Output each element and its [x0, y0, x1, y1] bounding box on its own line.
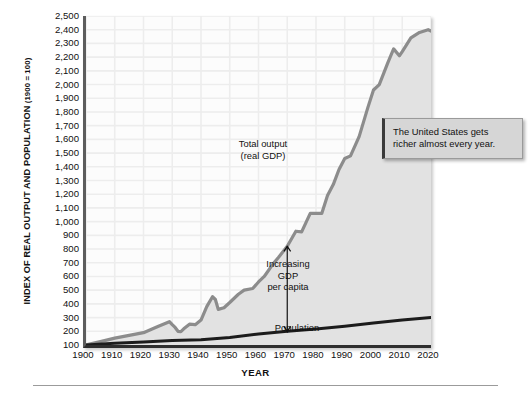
y-tick-label: 500	[27, 285, 79, 295]
y-tick-label: 1,800	[27, 107, 79, 117]
y-tick-label: 1,500	[27, 148, 79, 158]
callout-line1: The United States gets	[393, 126, 515, 138]
y-tick-label: 400	[27, 299, 79, 309]
y-tick-label: 2,100	[27, 66, 79, 76]
x-axis-title: YEAR	[83, 367, 428, 378]
chart-figure: INDEX OF REAL OUTPUT AND POPULATION (190…	[0, 0, 531, 400]
chart-svg	[86, 16, 431, 345]
y-tick-label: 700	[27, 258, 79, 268]
y-tick-label: 2,200	[27, 52, 79, 62]
y-tick-label: 600	[27, 271, 79, 281]
y-tick-label: 2,400	[27, 25, 79, 35]
series-label-population: Population	[254, 322, 340, 334]
y-tick-label: 300	[27, 313, 79, 323]
y-tick-label: 200	[27, 326, 79, 336]
footer-divider	[33, 385, 498, 386]
y-tick-label: 2,300	[27, 38, 79, 48]
y-tick-label: 1,600	[27, 134, 79, 144]
y-tick-label: 1,300	[27, 176, 79, 186]
series-label-gdp-line2: (real GDP)	[213, 150, 313, 162]
y-tick-label: 1,900	[27, 93, 79, 103]
series-label-gdp-line1: Total output	[213, 138, 313, 150]
y-tick-label: 800	[27, 244, 79, 254]
annotation-gdp-per-capita-line2: GDP	[252, 270, 324, 282]
y-tick-label: 1,700	[27, 121, 79, 131]
grid-and-series	[86, 16, 431, 345]
y-tick-label: 2,500	[27, 11, 79, 21]
plot-area	[83, 16, 431, 348]
series-label-gdp: Total output (real GDP)	[213, 138, 313, 161]
y-tick-label: 1,400	[27, 162, 79, 172]
x-tick-label: 2020	[408, 349, 448, 360]
y-tick-label: 2,000	[27, 80, 79, 90]
y-axis-tick-labels: 2,5002,4002,3002,2002,1002,0001,9001,800…	[25, 0, 79, 400]
y-tick-label: 900	[27, 230, 79, 240]
callout-box: The United States gets richer almost eve…	[382, 118, 523, 159]
y-tick-label: 1,200	[27, 189, 79, 199]
annotation-gdp-per-capita-line1: Increasing	[252, 258, 324, 270]
annotation-gdp-per-capita: Increasing GDP per capita	[252, 258, 324, 293]
callout-line2: richer almost every year.	[393, 138, 515, 150]
annotation-gdp-per-capita-line3: per capita	[252, 281, 324, 293]
y-tick-label: 1,000	[27, 217, 79, 227]
y-tick-label: 1,100	[27, 203, 79, 213]
